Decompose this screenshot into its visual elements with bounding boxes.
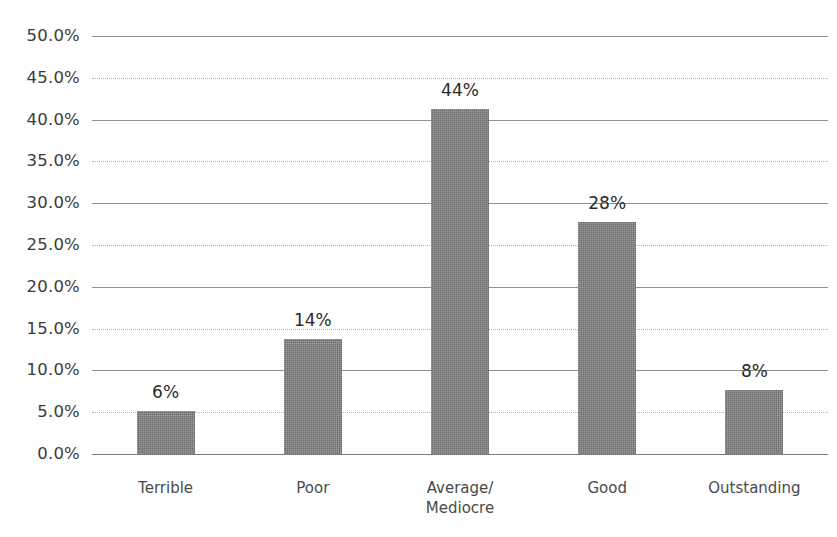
y-axis-tick-label: 25.0%	[0, 237, 80, 254]
bar-value-label: 44%	[441, 82, 479, 99]
bar	[725, 390, 783, 454]
bar-value-label: 8%	[741, 363, 768, 380]
bar	[578, 222, 636, 454]
bar-chart: 50.0%45.0%40.0%35.0%30.0%25.0%20.0%15.0%…	[0, 0, 837, 537]
gridline	[92, 78, 828, 79]
axis-baseline	[92, 454, 828, 455]
bar	[284, 339, 342, 454]
y-axis-tick-label: 5.0%	[0, 404, 80, 421]
y-axis-tick-label: 45.0%	[0, 70, 80, 87]
x-axis-category-label: Average/ Mediocre	[426, 478, 494, 519]
bar	[137, 411, 195, 454]
y-axis-tick-label: 15.0%	[0, 320, 80, 337]
bar-value-label: 28%	[588, 195, 626, 212]
x-axis-category-label: Outstanding	[708, 478, 800, 498]
x-axis-category-label: Good	[587, 478, 627, 498]
y-axis-tick-label: 50.0%	[0, 28, 80, 45]
y-axis-tick-label: 0.0%	[0, 446, 80, 463]
y-axis-tick-label: 30.0%	[0, 195, 80, 212]
x-axis-category-label: Terrible	[138, 478, 193, 498]
x-axis-category-label: Poor	[296, 478, 329, 498]
bar	[431, 109, 489, 454]
y-axis-tick-label: 40.0%	[0, 111, 80, 128]
y-axis-tick-label: 10.0%	[0, 362, 80, 379]
y-axis-tick-label: 35.0%	[0, 153, 80, 170]
bar-value-label: 14%	[294, 312, 332, 329]
gridline	[92, 36, 828, 37]
y-axis-tick-label: 20.0%	[0, 279, 80, 296]
bar-value-label: 6%	[152, 384, 179, 401]
